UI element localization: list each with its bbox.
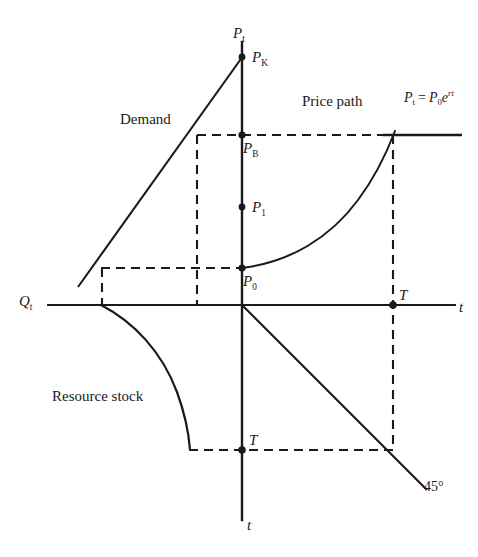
curve-label-price-path-text: Price path: [302, 93, 362, 109]
price-label-p1-base: P: [252, 199, 261, 215]
point-p1-dot: [239, 204, 246, 211]
curve-label-demand: Demand: [120, 112, 171, 127]
point-t-horizontal-dot: [389, 301, 397, 309]
equation-lhs-base: P: [404, 90, 413, 105]
price-label-pb-base: P: [243, 140, 252, 156]
curve-label-resource-stock: Resource stock: [52, 389, 143, 404]
price-path-equation: Pt=P0ert: [404, 89, 454, 107]
axis-label-t-down-text: t: [247, 517, 251, 533]
price-label-pk-sub: K: [261, 58, 268, 68]
resource-stock-curve: [101, 305, 190, 450]
time-label-t-horizontal: T: [399, 288, 407, 303]
price-label-p0: P0: [243, 274, 257, 292]
time-label-t-vertical: T: [249, 433, 257, 448]
forty-five-degree-line: [243, 306, 427, 490]
curve-label-demand-text: Demand: [120, 111, 171, 127]
price-label-pb-sub: B: [252, 149, 258, 159]
equation-equals: =: [418, 90, 426, 105]
equation-lhs-sub: t: [413, 97, 415, 107]
axis-label-t-down: t: [247, 518, 251, 533]
time-label-t-vertical-text: T: [249, 432, 257, 448]
axis-label-qt: Qt: [19, 294, 32, 312]
price-label-p1: P1: [252, 200, 266, 218]
axis-label-pt-sub: t: [242, 34, 245, 44]
point-t-vertical-dot: [238, 446, 246, 454]
price-label-pk: PK: [252, 50, 268, 68]
time-label-t-horizontal-text: T: [399, 287, 407, 303]
demand-curve: [78, 56, 243, 287]
axis-label-t-right-text: t: [459, 299, 463, 315]
curve-label-45-degree: 45°: [424, 480, 444, 494]
axis-label-pt-base: P: [233, 25, 242, 41]
price-label-p0-base: P: [243, 273, 252, 289]
axis-label-pt: Pt: [233, 26, 245, 44]
price-label-pb: PB: [243, 141, 258, 159]
point-pb-dot: [238, 131, 245, 138]
axis-label-qt-sub: t: [30, 302, 33, 312]
point-pk-dot: [239, 54, 246, 61]
price-label-pk-base: P: [252, 49, 261, 65]
price-label-p1-sub: 1: [261, 208, 266, 218]
axis-label-t-right: t: [459, 300, 463, 315]
curve-label-price-path: Price path: [302, 94, 362, 109]
price-label-p0-sub: 0: [252, 282, 257, 292]
axis-label-qt-base: Q: [19, 293, 30, 309]
curve-label-resource-stock-text: Resource stock: [52, 388, 143, 404]
point-p0-dot: [238, 264, 245, 271]
curve-label-45-degree-text: 45°: [424, 479, 444, 494]
hotelling-resource-diagram: [0, 0, 478, 557]
equation-exp-sup: rt: [448, 88, 454, 98]
